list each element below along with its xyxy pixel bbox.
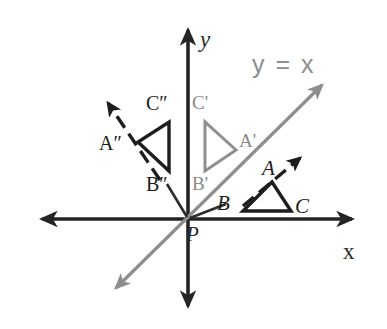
- origin-ray-to-b-double-prime: [167, 184, 187, 217]
- y-axis-label: y: [200, 28, 210, 51]
- vertex-label-a-prime: A': [239, 131, 256, 150]
- vertex-label-a: A: [262, 158, 275, 179]
- vertex-label-c-double-prime: C″: [146, 93, 168, 113]
- vertex-label-a-double-prime: A″: [99, 133, 122, 153]
- vertex-label-b-prime: B': [192, 174, 208, 193]
- triangle-shape: [138, 122, 169, 171]
- vertex-label-b-double-prime: B″: [146, 174, 168, 194]
- triangle-a-prime-b-prime-c-prime: [205, 122, 236, 171]
- geometry-diagram: y x P y = x A B C A' B' C' A″ B″ C″: [0, 0, 387, 329]
- x-axis-label: x: [343, 240, 355, 263]
- triangle-shape: [205, 122, 236, 171]
- triangle-a-double-prime-b-double-prime-c-double-prime: [138, 122, 169, 171]
- vertex-label-c: C: [295, 196, 309, 217]
- diagram-canvas: [0, 0, 387, 329]
- vertex-label-c-prime: C': [192, 93, 208, 112]
- vertex-label-b: B: [217, 193, 230, 214]
- origin-label-p: P: [186, 224, 199, 245]
- mirror-line-equation-label: y = x: [252, 52, 316, 77]
